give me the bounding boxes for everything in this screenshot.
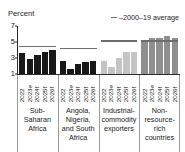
bar[interactable] (34, 55, 40, 74)
category-label: Industrial-commodityexporters (99, 106, 140, 133)
category-label-line: Africa (18, 124, 57, 133)
category-label-line: rich (140, 124, 179, 133)
x-axis-tick-label: 2022 (60, 88, 66, 102)
bar-set (139, 26, 180, 74)
x-axis-tick-label: 2026f (131, 87, 137, 102)
bar[interactable] (101, 61, 107, 74)
x-axis-tick-labels: 20222023e2024f2025f2026f (99, 76, 140, 102)
bar[interactable] (60, 61, 66, 74)
x-axis-tick-cell: 2026f (89, 76, 97, 102)
average-line (101, 40, 138, 41)
x-axis-tick-cell: 2026f (130, 76, 138, 102)
plot-area: 7531 (17, 26, 180, 74)
y-axis-unit-label: Percent (8, 9, 35, 18)
category-label-line: Sub- (18, 106, 57, 115)
bar-set (58, 26, 99, 74)
bar[interactable] (149, 38, 155, 74)
x-axis-tick-label: 2026f (49, 87, 55, 102)
bar[interactable] (116, 58, 122, 74)
bar-set (99, 26, 140, 74)
category-separator (139, 75, 140, 152)
bar-group (58, 26, 99, 74)
bar-group (17, 26, 58, 74)
x-axis-tick-label: 2025f (123, 87, 129, 102)
category-label-line: resource- (140, 115, 179, 124)
x-axis-tick-cell: 2022 (59, 76, 67, 102)
x-axis-tick-label: 2022 (19, 88, 25, 102)
category-label: Angola,Nigeria,and SouthAfrica (58, 106, 99, 142)
average-line (141, 40, 178, 41)
bar[interactable] (172, 38, 178, 74)
category-column: 20222023e2024f2025f2026fIndustrial-commo… (99, 75, 140, 152)
x-axis-tick-label: 2025f (164, 87, 170, 102)
x-axis-tick-label: 2023e (149, 85, 155, 102)
category-column: 20222023e2024f2025f2026fAngola,Nigeria,a… (58, 75, 99, 152)
x-axis-tick-label: 2024f (75, 87, 81, 102)
bar[interactable] (75, 64, 81, 74)
x-axis-tick-label: 2023e (67, 85, 73, 102)
bar-group (139, 26, 180, 74)
x-axis-tick-cell: 2024f (74, 76, 82, 102)
bar[interactable] (164, 36, 170, 74)
bar[interactable] (90, 61, 96, 74)
x-axis-tick-label: 2026f (172, 87, 178, 102)
category-label: Non-resource-richcountries (139, 106, 180, 142)
average-line (19, 46, 56, 47)
legend-label-average: –2000–19 average (119, 13, 179, 22)
bar[interactable] (67, 69, 73, 74)
category-label: Sub-SaharanAfrica (17, 106, 58, 133)
x-axis-tick-cell: 2023e (148, 76, 156, 102)
bar[interactable] (156, 38, 162, 74)
bar[interactable] (141, 40, 147, 74)
x-axis-tick-cell: 2026f (171, 76, 179, 102)
bar[interactable] (123, 52, 129, 74)
bar[interactable] (49, 50, 55, 74)
x-axis-tick-cell: 2025f (163, 76, 171, 102)
bar[interactable] (82, 62, 88, 74)
x-axis-tick-labels: 20222023e2024f2025f2026f (17, 76, 58, 102)
category-column: 20222023e2024f2025f2026fNon-resource-ric… (139, 75, 180, 152)
x-axis-tick-label: 2023e (108, 85, 114, 102)
category-separator (58, 75, 59, 152)
category-label-line: Industrial- (100, 106, 139, 115)
bar-group (99, 26, 140, 74)
category-column: 20222023e2024f2025f2026fSub-SaharanAfric… (17, 75, 58, 152)
bar[interactable] (131, 52, 137, 74)
x-axis-tick-label: 2022 (141, 88, 147, 102)
category-label-line: and South (59, 124, 98, 133)
category-label-line: countries (140, 133, 179, 142)
bar[interactable] (19, 53, 25, 74)
x-axis-tick-labels: 20222023e2024f2025f2026f (58, 76, 99, 102)
x-axis-tick-label: 2024f (34, 87, 40, 102)
average-line-swatch-icon (111, 17, 117, 18)
category-label-line: exporters (100, 124, 139, 133)
chart-legend: –2000–19 average (111, 13, 179, 22)
category-label-band: 20222023e2024f2025f2026fSub-SaharanAfric… (17, 75, 180, 152)
bar[interactable] (42, 52, 48, 74)
x-axis-tick-label: 2024f (157, 87, 163, 102)
category-label-line: commodity (100, 115, 139, 124)
category-band-right-edge (179, 75, 180, 152)
bar[interactable] (108, 67, 114, 74)
x-axis-tick-cell: 2026f (49, 76, 57, 102)
x-axis-tick-label: 2026f (90, 87, 96, 102)
category-separator (99, 75, 100, 152)
x-axis-tick-label: 2025f (83, 87, 89, 102)
average-line (60, 48, 97, 49)
bar-set (17, 26, 58, 74)
category-label-line: Non- (140, 106, 179, 115)
category-band-left-edge (17, 75, 18, 152)
category-label-line: Africa (59, 133, 98, 142)
x-axis-tick-labels: 20222023e2024f2025f2026f (139, 76, 180, 102)
category-label-line: Nigeria, (59, 115, 98, 124)
chart-figure: Percent –2000–19 average 7531 20222023e2… (0, 0, 185, 152)
category-label-line: Saharan (18, 115, 57, 124)
bar[interactable] (27, 59, 33, 74)
category-label-line: Angola, (59, 106, 98, 115)
